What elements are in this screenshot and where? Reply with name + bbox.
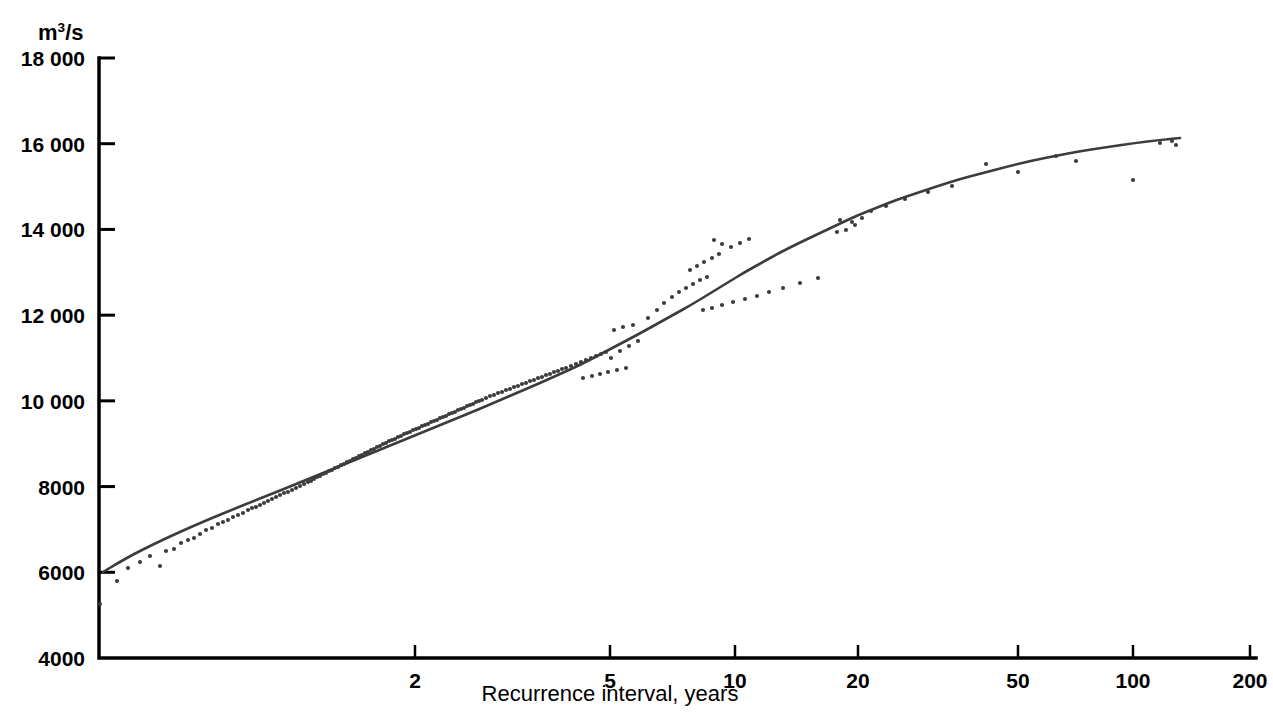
data-point	[589, 356, 593, 360]
chart-axes	[99, 58, 1256, 658]
data-point	[590, 374, 594, 378]
data-point	[606, 370, 610, 374]
data-point	[524, 381, 528, 385]
chart-figure: m3/s 18 00016 00014 00012 00010 00080006…	[0, 0, 1273, 715]
data-point	[164, 549, 168, 553]
data-point	[278, 493, 282, 497]
data-point	[755, 294, 759, 298]
data-point	[1016, 170, 1020, 174]
y-tick-label: 18 000	[21, 48, 85, 69]
data-point	[688, 268, 692, 272]
y-tick-label: 14 000	[21, 219, 85, 240]
data-point	[598, 372, 602, 376]
x-tick-label: 20	[846, 670, 869, 691]
data-point	[548, 372, 552, 376]
data-point	[556, 369, 560, 373]
data-point	[984, 162, 988, 166]
data-point	[204, 528, 208, 532]
data-point	[850, 220, 854, 224]
data-point	[138, 560, 142, 564]
data-point	[294, 486, 298, 490]
x-tick-label: 2	[409, 670, 421, 691]
data-point	[615, 368, 619, 372]
data-point	[720, 303, 724, 307]
data-point	[618, 349, 622, 353]
data-point	[544, 373, 548, 377]
data-point	[609, 356, 613, 360]
data-point	[691, 282, 695, 286]
fitted-curve-path	[103, 138, 1180, 572]
data-point	[710, 306, 714, 310]
y-axis-unit-base: m	[38, 20, 58, 45]
data-point	[1054, 154, 1058, 158]
data-point	[712, 238, 716, 242]
data-point	[290, 488, 294, 492]
y-tick-label: 6000	[38, 562, 85, 583]
data-point	[186, 538, 190, 542]
data-point	[286, 490, 290, 494]
data-point	[670, 295, 674, 299]
data-point	[226, 518, 230, 522]
data-point	[258, 503, 262, 507]
data-point	[282, 491, 286, 495]
data-point	[621, 325, 625, 329]
data-point-cloud	[98, 139, 1178, 606]
data-point	[655, 308, 659, 312]
data-point	[241, 511, 245, 515]
data-point	[844, 228, 848, 232]
data-point	[298, 484, 302, 488]
data-point	[198, 532, 202, 536]
data-point	[695, 264, 699, 268]
x-axis-title: Recurrence interval, years	[482, 683, 739, 705]
data-point	[705, 275, 709, 279]
data-point	[126, 566, 130, 570]
data-point	[717, 252, 721, 256]
axis-spine	[99, 58, 1256, 658]
data-point	[767, 290, 771, 294]
data-point	[564, 366, 568, 370]
data-point	[528, 379, 532, 383]
data-point	[536, 376, 540, 380]
data-point	[508, 387, 512, 391]
data-point	[884, 204, 888, 208]
data-point	[246, 508, 250, 512]
data-point	[1174, 143, 1178, 147]
x-tick-label: 100	[1115, 670, 1150, 691]
data-point	[148, 554, 152, 558]
data-point	[698, 278, 702, 282]
data-point	[158, 564, 162, 568]
data-point	[179, 541, 183, 545]
data-point	[816, 276, 820, 280]
data-point	[569, 364, 573, 368]
data-point	[492, 393, 496, 397]
data-point	[540, 375, 544, 379]
x-tick-label: 50	[1006, 670, 1029, 691]
data-point	[747, 237, 751, 241]
data-point	[581, 376, 585, 380]
data-point	[903, 197, 907, 201]
data-point	[266, 499, 270, 503]
y-tick-label: 8000	[38, 476, 85, 497]
data-point	[869, 209, 873, 213]
data-point	[98, 602, 102, 606]
data-point	[710, 256, 714, 260]
data-point	[646, 316, 650, 320]
data-point	[221, 520, 225, 524]
data-point	[1131, 178, 1135, 182]
y-tick-label: 16 000	[21, 133, 85, 154]
fitted-curve	[103, 138, 1180, 572]
chart-tick-marks	[99, 58, 1250, 658]
data-point	[631, 323, 635, 327]
data-point	[231, 515, 235, 519]
data-point	[1158, 141, 1162, 145]
y-axis-unit-tail: /s	[65, 20, 83, 45]
y-tick-label: 10 000	[21, 390, 85, 411]
data-point	[950, 184, 954, 188]
y-axis-unit-label: m3/s	[38, 22, 84, 44]
data-point	[662, 301, 666, 305]
data-point	[270, 497, 274, 501]
data-point	[860, 216, 864, 220]
data-point	[781, 286, 785, 290]
data-point	[838, 218, 842, 222]
data-point	[926, 190, 930, 194]
